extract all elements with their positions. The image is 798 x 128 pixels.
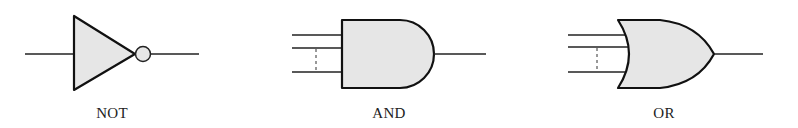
or-gate-label: OR	[653, 105, 674, 121]
and-gate: AND	[292, 20, 486, 121]
and-gate-label: AND	[372, 105, 405, 121]
not-gate-triangle-icon	[74, 16, 135, 90]
logic-gates-diagram: NOT AND OR	[0, 0, 798, 128]
not-gate-label: NOT	[96, 105, 128, 121]
or-gate-body-icon	[618, 20, 714, 88]
and-gate-body-icon	[342, 20, 434, 88]
or-gate: OR	[568, 20, 763, 121]
inversion-bubble-icon	[136, 47, 151, 62]
not-gate: NOT	[25, 16, 199, 121]
